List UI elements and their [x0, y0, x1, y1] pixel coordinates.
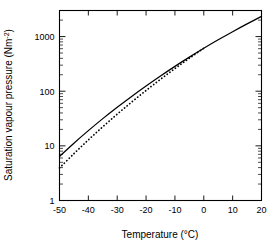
- x-tick-label: -10: [168, 205, 181, 215]
- plot-frame: [60, 11, 262, 201]
- y-axis-title-tail: ): [3, 29, 14, 32]
- x-axis-ticks-bottom: [60, 196, 262, 201]
- x-axis-title: Temperature (°C): [122, 229, 199, 240]
- saturation-vapour-pressure-chart: -50-40-30-20-1001020 1101001000 Temperat…: [0, 0, 280, 245]
- x-tick-label: -20: [140, 205, 153, 215]
- y-axis-title-main: Saturation vapour pressure (Nm: [3, 39, 14, 181]
- y-axis-ticks-minor: [60, 11, 262, 185]
- x-tick-label: -40: [82, 205, 95, 215]
- x-axis-tick-labels: -50-40-30-20-1001020: [53, 205, 267, 215]
- y-tick-label: 1: [49, 196, 54, 206]
- y-tick-label: 100: [39, 87, 54, 97]
- series-line-ice: [60, 48, 204, 168]
- x-tick-label: 20: [256, 205, 266, 215]
- chart-figure: -50-40-30-20-1001020 1101001000 Temperat…: [0, 0, 280, 245]
- x-tick-label: 0: [201, 205, 206, 215]
- y-axis-ticks-major: [60, 37, 66, 201]
- y-axis-ticks-right: [256, 37, 262, 201]
- x-tick-label: -50: [53, 205, 66, 215]
- y-tick-label: 1000: [34, 32, 54, 42]
- y-axis-title: Saturation vapour pressure (Nm-2): [3, 29, 14, 181]
- x-tick-label: 10: [228, 205, 238, 215]
- x-axis-ticks-top: [60, 11, 262, 16]
- x-tick-label: -30: [111, 205, 124, 215]
- y-axis-tick-labels: 1101001000: [34, 32, 54, 206]
- series-line-water: [60, 16, 262, 156]
- y-tick-label: 10: [44, 141, 54, 151]
